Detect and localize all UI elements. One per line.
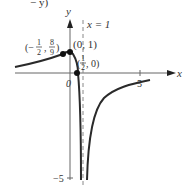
curve-right-branch: [87, 80, 150, 180]
svg-text:2: 2: [81, 63, 85, 72]
y-tick-label-neg5: −5: [53, 173, 64, 184]
point-x-intercept: [74, 70, 80, 76]
label-point-y-intercept: (0, 1): [73, 38, 97, 51]
svg-text:,: ,: [44, 42, 47, 53]
curve-left-branch: [15, 52, 81, 180]
svg-text:): ): [56, 42, 59, 54]
point-neg-half: [60, 51, 66, 57]
rational-function-graph: − y) x y 5 −5 0 x = 1 (− 1 2 , 8 9 ) (0,…: [0, 0, 184, 188]
asymptote-label: x = 1: [86, 18, 110, 30]
x-axis-arrow-icon: [167, 70, 176, 76]
svg-text:1: 1: [81, 54, 85, 63]
svg-text:9: 9: [50, 48, 54, 57]
y-axis-label: y: [65, 5, 71, 17]
svg-text:1: 1: [37, 38, 41, 47]
svg-text:(−: (−: [25, 42, 34, 54]
label-point-x-intercept: ( 1 2 , 0): [77, 54, 99, 72]
y-axis-arrow-icon: [67, 19, 73, 28]
origin-label: 0: [66, 78, 71, 89]
clipped-text-fragment: − y): [30, 0, 48, 9]
svg-text:2: 2: [37, 48, 41, 57]
x-axis-label: x: [176, 67, 182, 79]
label-point-neg-half: (− 1 2 , 8 9 ): [25, 38, 59, 57]
svg-text:8: 8: [50, 38, 54, 47]
svg-text:, 0): , 0): [86, 58, 99, 70]
